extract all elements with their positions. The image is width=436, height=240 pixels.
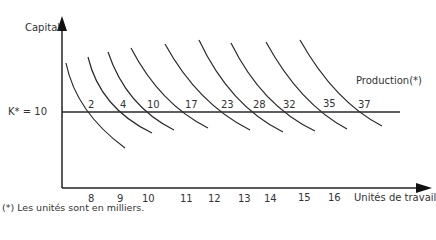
x-axis-label: Unités de travail [354, 192, 436, 204]
curve-label: 4 [120, 99, 126, 111]
curve-label: 2 [88, 99, 94, 111]
isoquant-35 [266, 42, 347, 129]
x-tick: 16 [328, 192, 341, 204]
x-tick: 11 [180, 193, 193, 205]
y-axis-label: Capital [25, 22, 60, 34]
isoquant-10 [108, 52, 174, 130]
isoquant-28 [199, 40, 283, 132]
k-star-label: K* = 10 [8, 106, 47, 118]
x-tick: 12 [208, 193, 221, 205]
curve-label: 10 [147, 99, 160, 111]
footnote: (*) Les unités sont en milliers. [2, 202, 144, 214]
curve-label: 32 [283, 99, 296, 111]
isoquant-2 [66, 63, 125, 148]
isoquant-32 [231, 43, 315, 131]
x-tick: 13 [238, 193, 251, 205]
curve-label: 37 [358, 99, 371, 111]
x-tick: 14 [264, 193, 277, 205]
curve-label: 35 [323, 98, 336, 110]
curve-label: 23 [221, 99, 234, 111]
curve-label: 17 [185, 99, 198, 111]
production-label: Production(*) [356, 75, 422, 87]
curve-label: 28 [253, 99, 266, 111]
x-tick: 15 [298, 192, 311, 204]
